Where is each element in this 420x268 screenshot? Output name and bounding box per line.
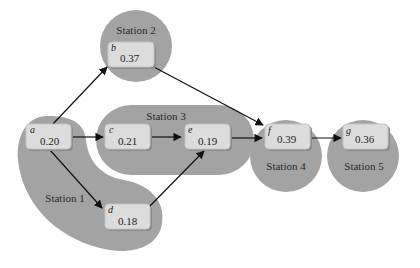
station-2-label: Station 2 [116,24,155,36]
svg-text:c: c [109,124,114,135]
task-a: a 0.20 [26,124,73,151]
task-f: f 0.39 [265,124,312,151]
svg-text:g: g [346,125,351,136]
task-d: d 0.18 [105,204,152,231]
station-5-label: Station 5 [344,160,384,172]
svg-text:0.19: 0.19 [198,135,218,147]
svg-text:0.20: 0.20 [40,135,60,147]
station-3-label: Station 3 [146,110,186,122]
edge-a-b [52,67,107,125]
svg-text:b: b [111,42,116,53]
svg-text:e: e [188,124,193,135]
svg-text:a: a [30,124,35,135]
station-1-label: Station 1 [45,192,84,204]
task-c: c 0.21 [105,124,152,151]
svg-text:0.21: 0.21 [118,135,137,147]
svg-text:0.18: 0.18 [118,215,138,227]
precedence-diagram: Station 2 Station 3 Station 1 Station 4 … [0,0,420,268]
task-e: e 0.19 [185,124,232,151]
task-g: g 0.36 [343,124,390,151]
svg-text:0.36: 0.36 [355,133,375,145]
svg-text:0.39: 0.39 [277,133,297,145]
station-4-label: Station 4 [266,160,306,172]
svg-text:0.37: 0.37 [120,52,140,64]
task-b: b 0.37 [108,42,156,69]
